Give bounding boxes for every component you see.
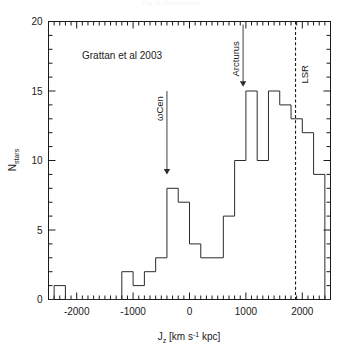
x-tick-label: -1000 bbox=[120, 306, 146, 317]
x-tick-label: 2000 bbox=[291, 306, 314, 317]
y-tick-labels: 05101520 bbox=[31, 16, 43, 305]
x-axis-label: Jz [km s-1 kpc] bbox=[158, 331, 221, 344]
y-tick-label: 0 bbox=[37, 294, 43, 305]
y-tick-label: 5 bbox=[37, 225, 43, 236]
x-tick-label: 1000 bbox=[235, 306, 258, 317]
lsr-label: LSR bbox=[299, 65, 310, 84]
x-axis-ticks bbox=[49, 22, 331, 300]
y-axis-label: Nstars bbox=[7, 148, 20, 171]
y-axis-ticks bbox=[49, 22, 331, 300]
x-tick-label: 0 bbox=[187, 306, 193, 317]
omega-cen-annotation: ωCen bbox=[154, 91, 170, 174]
omega-cen-label: ωCen bbox=[154, 96, 165, 121]
arcturus-arrow-head bbox=[240, 81, 246, 87]
plot-frame bbox=[49, 22, 331, 300]
omega-cen-arrow-head bbox=[164, 169, 170, 175]
figure-top-caption: Fig. 6. Distribution bbox=[0, 0, 343, 6]
arcturus-label: Arcturus bbox=[230, 41, 241, 77]
figure-container: Fig. 6. Distribution ωCen Arcturus LSR G… bbox=[0, 0, 343, 356]
histogram-step-line bbox=[49, 91, 331, 300]
x-tick-labels: -2000-1000010002000 bbox=[64, 306, 314, 317]
y-tick-label: 15 bbox=[31, 86, 43, 97]
x-tick-label: -2000 bbox=[64, 306, 90, 317]
y-tick-label: 20 bbox=[31, 16, 43, 27]
arcturus-annotation: Arcturus bbox=[230, 25, 246, 87]
histogram-chart: ωCen Arcturus LSR Grattan et al 2003 -20… bbox=[0, 0, 343, 356]
y-tick-label: 10 bbox=[31, 155, 43, 166]
citation-text: Grattan et al 2003 bbox=[82, 50, 162, 61]
